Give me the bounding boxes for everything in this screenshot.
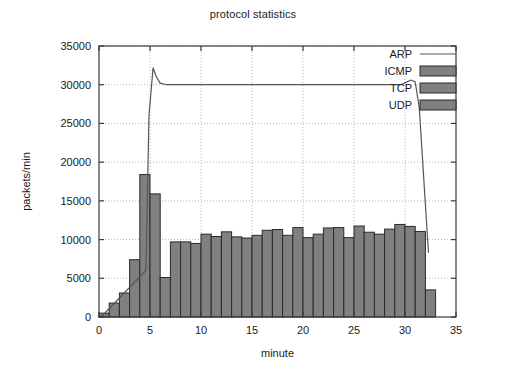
bar	[191, 243, 201, 317]
bar	[364, 232, 374, 317]
bar	[130, 260, 140, 317]
bar	[109, 303, 119, 317]
bar	[283, 235, 293, 317]
legend-swatch-tcp	[420, 83, 456, 93]
bar	[242, 238, 252, 317]
bar	[181, 242, 191, 317]
bar	[272, 230, 282, 317]
bar	[344, 238, 354, 317]
bar	[160, 278, 170, 317]
y-tick-label: 25000	[60, 117, 91, 129]
bar	[140, 175, 150, 317]
bar	[232, 237, 242, 317]
bar	[415, 231, 425, 317]
x-tick-label: 30	[399, 324, 411, 336]
x-tick-label: 5	[147, 324, 153, 336]
legend-label-icmp: ICMP	[385, 65, 413, 77]
y-tick-label: 35000	[60, 40, 91, 52]
bar	[354, 226, 364, 317]
bar	[425, 290, 435, 317]
bar	[395, 224, 405, 317]
bar	[313, 234, 323, 317]
x-tick-label: 20	[297, 324, 309, 336]
y-tick-label: 15000	[60, 195, 91, 207]
y-tick-label: 20000	[60, 156, 91, 168]
legend-swatch-icmp	[420, 66, 456, 76]
y-tick-label: 30000	[60, 79, 91, 91]
y-axis-title: packets/min	[20, 152, 32, 211]
bar	[211, 236, 221, 317]
legend-swatch-udp	[420, 100, 456, 110]
bar	[405, 226, 415, 317]
chart-container: protocol statistics 05000100001500020000…	[0, 0, 506, 376]
bar	[150, 194, 160, 317]
y-tick-label: 10000	[60, 234, 91, 246]
x-tick-label: 10	[195, 324, 207, 336]
bar	[323, 228, 333, 317]
legend-label-arp: ARP	[389, 48, 412, 60]
bar	[221, 232, 231, 317]
bar	[293, 228, 303, 317]
bar	[303, 238, 313, 317]
x-tick-label: 25	[348, 324, 360, 336]
x-axis-title: minute	[261, 347, 294, 359]
x-tick-label: 35	[450, 324, 462, 336]
legend-label-tcp: TCP	[390, 82, 412, 94]
bar	[262, 230, 272, 317]
y-tick-label: 5000	[67, 272, 91, 284]
bar	[252, 235, 262, 317]
bar	[170, 242, 180, 317]
bar	[334, 228, 344, 317]
x-tick-label: 15	[246, 324, 258, 336]
plot-area: 0500010000150002000025000300003500005101…	[0, 0, 506, 376]
bar	[385, 229, 395, 317]
legend-label-udp: UDP	[389, 99, 412, 111]
y-tick-label: 0	[85, 311, 91, 323]
bar	[374, 234, 384, 317]
x-tick-label: 0	[96, 324, 102, 336]
bar	[201, 234, 211, 317]
